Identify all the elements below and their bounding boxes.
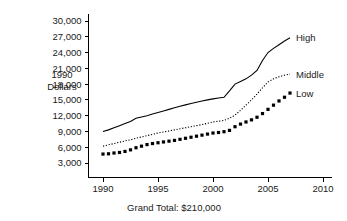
x-tick-label: 2005 <box>257 183 278 194</box>
data-point-marker <box>140 145 143 148</box>
y-tick-label: 15,000 <box>52 94 81 105</box>
data-point-marker <box>151 142 154 145</box>
data-point-marker <box>233 125 236 128</box>
y-tick-label: 30,000 <box>52 15 81 26</box>
x-tick-label: 1990 <box>92 183 113 194</box>
data-point-marker <box>178 138 181 141</box>
y-tick-label: 9,000 <box>58 126 82 137</box>
x-tick-label: 2010 <box>312 183 333 194</box>
data-point-marker <box>112 151 115 154</box>
data-point-marker <box>101 152 104 155</box>
axes-group <box>85 14 333 182</box>
y-axis-title-line-2: Dollars <box>47 81 77 92</box>
data-point-marker <box>266 108 269 111</box>
data-point-marker <box>288 91 291 94</box>
series-markers-low <box>101 91 291 155</box>
data-point-marker <box>134 146 137 149</box>
y-tick-label: 12,000 <box>52 110 81 121</box>
data-point-marker <box>167 140 170 143</box>
y-tick-label: 24,000 <box>52 47 81 58</box>
data-point-marker <box>123 150 126 153</box>
data-point-marker <box>200 134 203 137</box>
data-point-marker <box>129 148 132 151</box>
data-point-marker <box>239 122 242 125</box>
data-point-marker <box>162 140 165 143</box>
y-tick-label: 6,000 <box>58 142 82 153</box>
x-tick-label: 2000 <box>202 183 223 194</box>
data-point-marker <box>228 129 231 132</box>
data-point-marker <box>222 130 225 133</box>
data-point-marker <box>217 131 220 134</box>
data-point-marker <box>272 104 275 107</box>
data-point-marker <box>118 151 121 154</box>
data-point-marker <box>107 152 110 155</box>
data-point-marker <box>189 136 192 139</box>
grand-total-footnote: Grand Total: $210,000 <box>127 202 221 213</box>
data-point-marker <box>206 132 209 135</box>
y-axis-title-line-1: 1990 <box>51 69 72 80</box>
line-chart: 3,0006,0009,00012,00015,00018,00021,0002… <box>0 0 347 221</box>
y-tick-label: 27,000 <box>52 31 81 42</box>
data-point-marker <box>277 99 280 102</box>
data-point-marker <box>211 131 214 134</box>
data-point-marker <box>195 135 198 138</box>
data-point-marker <box>184 137 187 140</box>
data-point-marker <box>145 143 148 146</box>
series-line-high <box>103 38 290 132</box>
series-label-high: High <box>296 32 316 43</box>
data-point-marker <box>283 96 286 99</box>
data-point-marker <box>173 139 176 142</box>
x-tick-label: 1995 <box>147 183 168 194</box>
series-label-low: Low <box>296 88 314 99</box>
data-point-marker <box>255 116 258 119</box>
y-tick-label: 3,000 <box>58 157 82 168</box>
series-label-middle: Middle <box>296 69 324 80</box>
data-point-marker <box>250 118 253 121</box>
data-point-marker <box>244 120 247 123</box>
data-point-marker <box>261 112 264 115</box>
data-point-marker <box>156 141 159 144</box>
chart-container: 3,0006,0009,00012,00015,00018,00021,0002… <box>0 0 347 221</box>
x-axis-tick-labels: 19901995200020052010 <box>92 183 333 194</box>
